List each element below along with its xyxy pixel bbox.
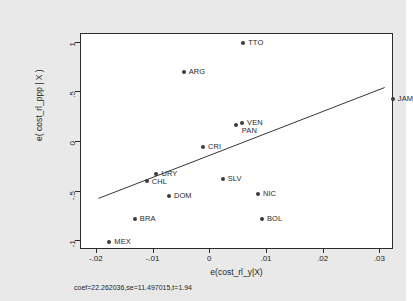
data-point: [154, 172, 158, 176]
data-point-label: MEX: [114, 238, 131, 246]
data-point-label: TTO: [248, 39, 263, 47]
x-axis-tick: [266, 249, 267, 253]
x-axis-tick: [96, 249, 97, 253]
plot-frame: 1.50-.5-1 e( cost_rl_ppp | X ) TTOARGJAM…: [12, 11, 394, 290]
x-axis-tick-label: -.01: [146, 254, 160, 263]
data-point: [221, 177, 225, 181]
plot-area: TTOARGJAMVENPANCRIURYCHLSLVDOMNICBRABOLM…: [80, 33, 393, 249]
x-axis-tick: [209, 249, 210, 253]
y-axis-tick-label: .5: [69, 91, 77, 98]
data-point: [133, 217, 137, 221]
data-point-label: JAM: [398, 95, 413, 103]
data-point-label: CHL: [152, 178, 167, 186]
y-axis-tick-label: -1: [69, 240, 77, 247]
data-point: [391, 97, 395, 101]
y-axis-tick-label: 1: [69, 42, 77, 46]
x-axis-tick: [153, 249, 154, 253]
data-point: [145, 179, 149, 183]
y-axis-title: e( cost_rl_ppp | X ): [34, 69, 44, 141]
data-point: [201, 145, 205, 149]
y-axis: 1.50-.5-1: [68, 33, 80, 249]
data-point-label: DOM: [174, 192, 192, 200]
data-point: [241, 41, 245, 45]
data-point: [240, 121, 244, 125]
data-point-label: CRI: [208, 143, 221, 151]
x-axis-tick-label: .03: [374, 254, 385, 263]
data-point: [260, 217, 264, 221]
data-point-label: PAN: [242, 127, 257, 135]
data-point: [256, 192, 260, 196]
x-axis-tick: [379, 249, 380, 253]
x-axis-tick-label: -.02: [89, 254, 103, 263]
data-point: [234, 123, 238, 127]
scatter-points: TTOARGJAMVENPANCRIURYCHLSLVDOMNICBRABOLM…: [81, 34, 392, 248]
y-axis-tick-label: 0: [69, 141, 77, 145]
x-axis-tick-label: .01: [260, 254, 271, 263]
regression-stats-caption: coef=22.262036,se=11.497015,t=1.94: [74, 284, 192, 291]
data-point-label: BOL: [267, 215, 282, 223]
x-axis-tick: [323, 249, 324, 253]
data-point-label: ARG: [189, 68, 206, 76]
data-point: [182, 70, 186, 74]
data-point-label: SLV: [228, 175, 242, 183]
data-point-label: BRA: [140, 215, 156, 223]
x-axis: -.02-.010.01.02.03: [80, 249, 393, 263]
data-point: [167, 194, 171, 198]
data-point-label: NIC: [263, 190, 276, 198]
data-point: [107, 240, 111, 244]
x-axis-title: e(cost_rl_y|X): [80, 267, 393, 277]
x-axis-tick-label: 0: [207, 254, 211, 263]
y-axis-tick-label: -.5: [69, 191, 77, 200]
x-axis-tick-label: .02: [317, 254, 328, 263]
